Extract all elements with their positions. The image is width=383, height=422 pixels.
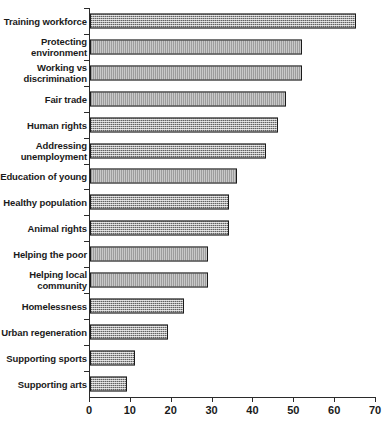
bar (90, 91, 286, 106)
x-axis-tick-label: 50 (273, 404, 313, 416)
bar (90, 117, 278, 132)
y-axis-tick (84, 293, 89, 294)
bar-row: Human rights (0, 112, 383, 138)
bar-row: Supporting sports (0, 345, 383, 371)
bar (90, 169, 237, 184)
bar-row: Education of young (0, 164, 383, 190)
category-label: Helping the poor (0, 249, 87, 260)
x-axis-tick (171, 397, 172, 402)
bar (90, 39, 302, 54)
bar-chart: Training workforceProtecting environment… (0, 0, 383, 422)
y-axis-tick (84, 241, 89, 242)
y-axis-tick (84, 371, 89, 372)
y-axis-tick (84, 34, 89, 35)
bar (90, 273, 208, 288)
bar-row: Healthy population (0, 189, 383, 215)
bar-row: Fair trade (0, 86, 383, 112)
y-axis-tick (84, 138, 89, 139)
category-label: Working vs discrimination (0, 62, 87, 84)
x-axis-tick (212, 397, 213, 402)
x-axis-tick-label: 40 (232, 404, 272, 416)
y-axis-tick (84, 215, 89, 216)
x-axis-tick-label: 60 (314, 404, 354, 416)
y-axis-tick (84, 86, 89, 87)
x-axis-tick (89, 397, 90, 402)
bar-row: Protecting environment (0, 34, 383, 60)
x-axis-tick (252, 397, 253, 402)
category-label: Addressing unemployment (0, 140, 87, 162)
x-axis-tick-label: 70 (355, 404, 383, 416)
x-axis-tick (293, 397, 294, 402)
x-axis-tick (375, 397, 376, 402)
category-label: Human rights (0, 119, 87, 130)
bar-row: Supporting arts (0, 371, 383, 397)
y-axis-tick (84, 164, 89, 165)
category-label: Supporting arts (0, 378, 87, 389)
bar-row: Helping the poor (0, 241, 383, 267)
x-axis-tick-label: 30 (192, 404, 232, 416)
category-label: Fair trade (0, 93, 87, 104)
category-label: Education of young (0, 171, 87, 182)
bar (90, 376, 127, 391)
bar (90, 350, 135, 365)
category-label: Homelessness (0, 301, 87, 312)
y-axis-tick (84, 189, 89, 190)
bar-row: Training workforce (0, 8, 383, 34)
bar (90, 195, 229, 210)
bar-row: Addressing unemployment (0, 138, 383, 164)
x-axis-tick (334, 397, 335, 402)
category-label: Animal rights (0, 223, 87, 234)
category-label: Supporting sports (0, 352, 87, 363)
y-axis-tick (84, 267, 89, 268)
x-axis-tick-label: 20 (151, 404, 191, 416)
bar (90, 143, 266, 158)
bar-row: Urban regeneration (0, 319, 383, 345)
bar-row: Helping local community (0, 267, 383, 293)
y-axis-tick (84, 60, 89, 61)
bar-row: Animal rights (0, 215, 383, 241)
bar-row: Working vs discrimination (0, 60, 383, 86)
y-axis-tick (84, 345, 89, 346)
y-axis-tick (84, 319, 89, 320)
y-axis-tick (84, 112, 89, 113)
bar (90, 299, 184, 314)
bar-row: Homelessness (0, 293, 383, 319)
category-label: Training workforce (0, 15, 87, 26)
bar (90, 247, 208, 262)
x-axis-tick (130, 397, 131, 402)
bar (90, 325, 168, 340)
y-axis-tick (84, 8, 89, 9)
category-label: Urban regeneration (0, 327, 87, 338)
category-label: Healthy population (0, 197, 87, 208)
category-label: Protecting environment (0, 36, 87, 58)
category-label: Helping local community (0, 269, 87, 291)
bar (90, 65, 302, 80)
bar-rows-container: Training workforceProtecting environment… (0, 8, 383, 397)
bar (90, 221, 229, 236)
bar (90, 13, 356, 28)
x-axis-tick-label: 0 (69, 404, 109, 416)
x-axis-tick-label: 10 (110, 404, 150, 416)
x-axis-ticks: 010203040506070 (0, 397, 383, 422)
